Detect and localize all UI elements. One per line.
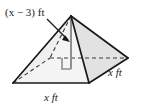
- base-right-label-text: x ft: [107, 66, 123, 78]
- base-front-label-text: x ft: [43, 91, 59, 103]
- base-front-label: x ft: [43, 91, 59, 103]
- base-right-label: x ft: [107, 66, 123, 78]
- height-label-text: (x − 3) ft: [5, 6, 45, 19]
- height-label: (x − 3) ft: [5, 6, 45, 19]
- pyramid-diagram-svg: (x − 3) ft x ft x ft: [0, 0, 141, 107]
- pyramid-figure: (x − 3) ft x ft x ft: [0, 0, 141, 107]
